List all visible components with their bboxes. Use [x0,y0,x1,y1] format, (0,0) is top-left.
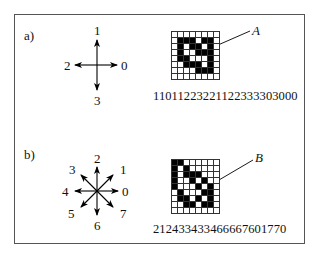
chain-code-b: 212433433466667601770 [153,222,286,237]
grid-cell [196,202,201,207]
grid-cell [208,208,213,213]
grid-cell [214,32,219,37]
grid-cell [196,184,201,189]
grid-cell [184,44,189,49]
grid-cell [196,196,201,201]
grid-cell [178,32,183,37]
grid-cell [202,32,207,37]
shape-grid-b [171,159,220,214]
grid-cell [208,196,213,201]
grid-cell [190,62,195,67]
grid-cell [172,196,177,201]
grid-cell [202,68,207,73]
grid-cell [190,160,195,165]
direction-1: 1 [120,162,127,178]
grid-cell [172,50,177,55]
grid-cell [208,184,213,189]
grid-cell [214,74,219,79]
grid-cell [214,202,219,207]
grid-cell [202,166,207,171]
leader-line-a [218,31,250,45]
grid-cell [208,62,213,67]
grid-cell [184,160,189,165]
grid-cell [208,172,213,177]
grid-cell [190,56,195,61]
grid-cell [202,172,207,177]
grid-cell [202,56,207,61]
grid-cell [214,166,219,171]
direction-4: 4 [62,184,69,200]
grid-cell [178,172,183,177]
grid-cell [178,44,183,49]
grid-cell [172,38,177,43]
grid-cell [202,62,207,67]
direction-2: 2 [94,151,101,167]
grid-cell [208,190,213,195]
grid-cell [184,196,189,201]
grid-cell [202,208,207,213]
grid-cell [208,202,213,207]
grid-cell [202,184,207,189]
grid-cell [172,56,177,61]
grid-cell [214,172,219,177]
grid-cell [172,44,177,49]
grid-cell [196,32,201,37]
grid-cell [178,38,183,43]
grid-cell [202,44,207,49]
grid-cell [208,32,213,37]
grid-cell [178,202,183,207]
grid-cell [214,160,219,165]
grid-cell [214,184,219,189]
grid-cell [184,74,189,79]
grid-cell [184,62,189,67]
grid-cell [184,32,189,37]
shape-grid-a [171,31,220,80]
grid-cell [202,178,207,183]
grid-cell [178,190,183,195]
grid-cell [178,208,183,213]
grid-cell [202,50,207,55]
direction-0: 0 [122,184,129,200]
grid-cell [172,178,177,183]
grid-cell [190,68,195,73]
grid-cell [208,56,213,61]
grid-cell [178,160,183,165]
grid-cell [190,202,195,207]
grid-cell [196,190,201,195]
grid-cell [178,196,183,201]
grid-cell [184,190,189,195]
grid-cell [190,172,195,177]
grid-cell [190,208,195,213]
grid-cell [214,38,219,43]
grid-cell [202,190,207,195]
direction-7: 7 [120,206,127,222]
grid-cell [184,202,189,207]
grid-cell [190,166,195,171]
grid-cell [208,68,213,73]
grid-cell [214,190,219,195]
direction-6: 6 [94,218,101,234]
grid-cell [208,178,213,183]
grid-cell [178,56,183,61]
grid-cell [190,38,195,43]
grid-cell [190,32,195,37]
grid-cell [178,62,183,67]
grid-cell [172,74,177,79]
grid-cell [190,178,195,183]
grid-cell [196,62,201,67]
grid-cell [172,184,177,189]
grid-cell [196,74,201,79]
grid-cell [196,38,201,43]
grid-cell [214,196,219,201]
grid-cell [202,196,207,201]
grid-cell [190,196,195,201]
grid-cell [214,68,219,73]
grid-cell [178,166,183,171]
grid-cell [208,160,213,165]
grid-cell [178,184,183,189]
grid-cell [214,56,219,61]
grid-cell [172,208,177,213]
grid-cell [208,44,213,49]
grid-cell [184,38,189,43]
chain-code-a: 11011223221122333303000 [153,89,298,104]
